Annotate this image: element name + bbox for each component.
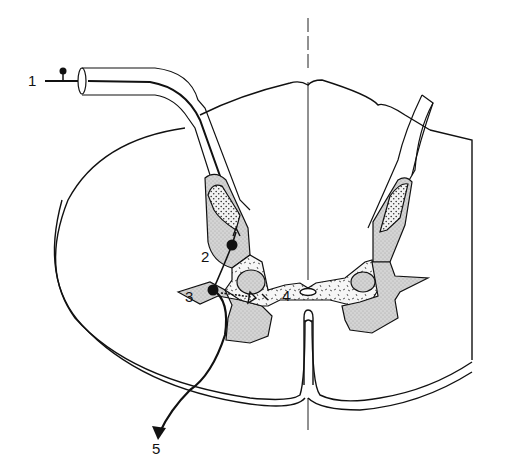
label-3: 3 — [185, 288, 193, 305]
label-1: 1 — [28, 72, 36, 89]
arrow-head-icon — [152, 426, 166, 440]
label-4: 4 — [282, 287, 290, 304]
white-matter-outline — [54, 80, 472, 410]
gray-matter-right — [342, 178, 428, 333]
spinal-cord-diagram: 1 2 3 4 5 — [0, 0, 508, 473]
label-2: 2 — [201, 248, 209, 265]
central-canal — [300, 289, 316, 296]
label-5: 5 — [152, 440, 160, 457]
